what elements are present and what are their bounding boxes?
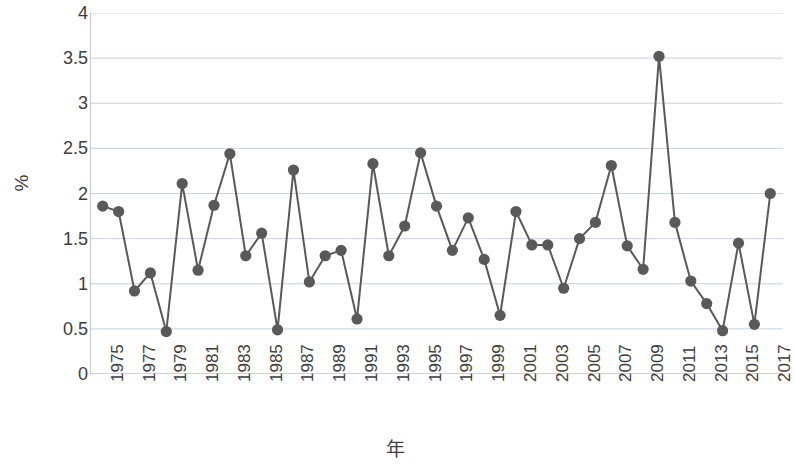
y-tick-label: 3.5 (30, 49, 88, 67)
data-point[interactable] (192, 265, 203, 276)
x-tick-label: 2011 (681, 345, 698, 382)
data-point[interactable] (701, 298, 712, 309)
data-point[interactable] (383, 250, 394, 261)
data-point[interactable] (685, 275, 696, 286)
data-point[interactable] (177, 178, 188, 189)
y-tick-label: 2 (30, 185, 88, 203)
data-point[interactable] (463, 212, 474, 223)
x-tick-label: 1993 (395, 344, 412, 382)
data-point[interactable] (240, 250, 251, 261)
y-tick-label: 4 (30, 4, 88, 22)
data-point[interactable] (129, 285, 140, 296)
x-tick-label: 2017 (776, 344, 793, 382)
y-tick-label: 1.5 (30, 230, 88, 248)
x-tick-label: 1987 (299, 344, 316, 382)
data-point[interactable] (367, 158, 378, 169)
x-tick-label: 1991 (363, 344, 380, 382)
data-point[interactable] (669, 217, 680, 228)
data-point[interactable] (479, 254, 490, 265)
x-tick-label: 1995 (427, 344, 444, 382)
x-tick-label: 1975 (109, 344, 126, 382)
data-point[interactable] (622, 240, 633, 251)
data-point[interactable] (272, 324, 283, 335)
data-point[interactable] (717, 325, 728, 336)
data-point[interactable] (447, 245, 458, 256)
y-axis-tick-labels: 43.532.521.510.50 (30, 0, 88, 390)
data-point[interactable] (749, 319, 760, 330)
y-tick-label: 1 (30, 275, 88, 293)
data-point[interactable] (653, 51, 664, 62)
data-point[interactable] (606, 160, 617, 171)
data-point[interactable] (494, 310, 505, 321)
data-point[interactable] (304, 276, 315, 287)
series-line (103, 56, 771, 331)
x-tick-label: 1989 (331, 344, 348, 382)
data-point[interactable] (145, 267, 156, 278)
data-point[interactable] (320, 250, 331, 261)
x-tick-label: 1985 (268, 344, 285, 382)
x-tick-label: 1979 (172, 344, 189, 382)
x-tick-label: 1977 (141, 344, 158, 382)
x-axis-title: 年 (0, 434, 790, 461)
x-tick-label: 2013 (713, 344, 730, 382)
x-tick-label: 2007 (617, 344, 634, 382)
data-point[interactable] (638, 264, 649, 275)
data-point[interactable] (399, 220, 410, 231)
data-point[interactable] (526, 239, 537, 250)
data-point[interactable] (113, 206, 124, 217)
data-point[interactable] (161, 326, 172, 337)
x-tick-label: 1983 (236, 344, 253, 382)
data-point[interactable] (224, 148, 235, 159)
x-tick-label: 2001 (522, 344, 539, 382)
x-tick-label: 2003 (554, 344, 571, 382)
plot-area (90, 13, 783, 374)
data-point[interactable] (510, 206, 521, 217)
data-point[interactable] (542, 239, 553, 250)
data-point[interactable] (208, 200, 219, 211)
x-tick-label: 1997 (458, 344, 475, 382)
data-point[interactable] (765, 188, 776, 199)
data-point[interactable] (415, 147, 426, 158)
x-tick-label: 2005 (586, 344, 603, 382)
x-tick-label: 2015 (744, 344, 761, 382)
y-tick-label: 0.5 (30, 320, 88, 338)
data-point[interactable] (590, 217, 601, 228)
y-tick-label: 0 (30, 365, 88, 383)
x-axis-tick-labels: 1975197719791981198319851987198919911993… (90, 374, 783, 434)
data-point[interactable] (733, 238, 744, 249)
y-tick-label: 3 (30, 94, 88, 112)
x-tick-label: 1981 (204, 344, 221, 382)
data-point[interactable] (97, 201, 108, 212)
x-tick-label: 2009 (649, 344, 666, 382)
y-tick-label: 2.5 (30, 139, 88, 157)
x-tick-label: 1999 (490, 344, 507, 382)
data-point[interactable] (288, 164, 299, 175)
data-point[interactable] (574, 233, 585, 244)
data-point[interactable] (351, 313, 362, 324)
data-point[interactable] (431, 201, 442, 212)
data-point[interactable] (256, 228, 267, 239)
data-point[interactable] (336, 245, 347, 256)
data-point[interactable] (558, 283, 569, 294)
data-series (90, 13, 783, 374)
